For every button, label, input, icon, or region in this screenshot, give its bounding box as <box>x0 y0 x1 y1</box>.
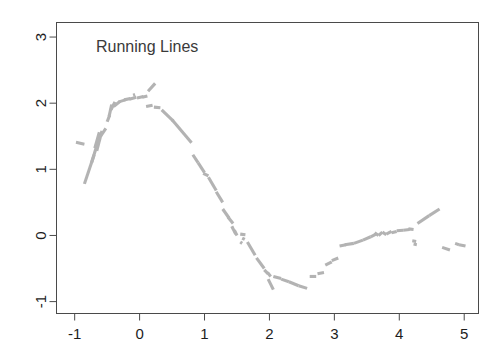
y-tick-label: 3 <box>32 33 49 41</box>
y-axis-ticks: -10123 <box>32 33 57 308</box>
x-tick-label: 2 <box>265 325 273 342</box>
data-segment <box>459 245 465 246</box>
data-segment <box>240 242 242 243</box>
data-segment <box>146 105 152 106</box>
data-segment <box>193 155 198 163</box>
data-segment <box>332 258 338 261</box>
data-segment <box>363 237 371 240</box>
data-segment <box>382 232 386 235</box>
data-segment <box>198 163 204 173</box>
data-segment <box>268 272 271 276</box>
data-segment <box>256 258 264 269</box>
data-segment <box>129 97 136 99</box>
data-segment <box>345 243 354 244</box>
data-segment <box>386 231 391 234</box>
data-segment <box>154 107 160 108</box>
data-series-running-lines <box>76 83 466 289</box>
data-segment <box>408 229 413 230</box>
data-segment <box>162 110 174 121</box>
y-tick-label: 1 <box>32 165 49 173</box>
data-segment <box>148 83 155 91</box>
data-segment <box>412 241 416 242</box>
x-tick-label: 3 <box>330 325 338 342</box>
data-segment <box>268 279 273 290</box>
data-segment <box>142 96 147 97</box>
data-segment <box>208 177 216 190</box>
chart-root: -1012345 -10123 Running Lines <box>0 0 501 354</box>
x-tick-label: 5 <box>460 325 468 342</box>
data-segment <box>354 240 363 243</box>
running-lines-chart: -1012345 -10123 Running Lines <box>0 0 501 354</box>
data-segment <box>216 192 222 203</box>
x-axis-ticks: -1012345 <box>68 314 468 342</box>
page-title: Running Lines <box>96 38 198 55</box>
data-segment <box>455 243 459 244</box>
data-segment <box>281 279 289 282</box>
data-segment <box>317 272 323 273</box>
data-segment <box>392 231 397 232</box>
data-segment <box>379 232 383 235</box>
data-segment <box>442 247 450 250</box>
data-segment <box>234 230 237 235</box>
y-tick-label: 2 <box>32 99 49 107</box>
data-segment <box>203 173 208 176</box>
plot-frame <box>57 23 479 314</box>
data-segment <box>299 286 307 289</box>
y-tick-label: 0 <box>32 231 49 239</box>
data-segment <box>414 244 417 245</box>
data-segment <box>247 242 255 255</box>
data-segment <box>325 262 331 265</box>
data-segment <box>429 209 439 216</box>
data-segment <box>289 282 299 286</box>
x-tick-label: -1 <box>68 325 81 342</box>
data-segment <box>172 120 191 143</box>
data-segment <box>273 276 281 278</box>
y-tick-label: -1 <box>32 295 49 308</box>
data-segment <box>240 234 245 235</box>
data-segment <box>228 217 233 224</box>
data-segment <box>397 230 403 231</box>
x-tick-label: 1 <box>200 325 208 342</box>
x-tick-label: 0 <box>135 325 143 342</box>
data-segment <box>101 128 106 136</box>
data-segment <box>133 95 135 96</box>
data-segment <box>76 142 84 144</box>
plot-frame-rect <box>57 23 479 314</box>
data-segment <box>417 216 429 224</box>
data-segment <box>242 238 245 239</box>
x-tick-label: 4 <box>395 325 403 342</box>
